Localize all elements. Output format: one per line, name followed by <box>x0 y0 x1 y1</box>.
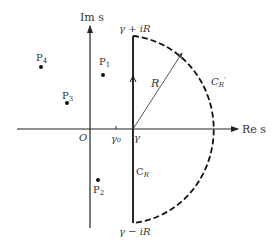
imag-axis-label: Im s <box>80 11 104 24</box>
pole-label: P2 <box>93 184 104 197</box>
gamma0-label: γ₀ <box>111 133 121 144</box>
contour-line-label-sub: R <box>143 171 150 179</box>
radius-label: R <box>150 77 159 90</box>
pole-label: P3 <box>62 90 73 103</box>
contour-diagram: Re s Im s O γ₀ γ R γ + iR γ − iR CR CR′ … <box>0 0 272 251</box>
pole-label: P4 <box>36 52 48 65</box>
contour-bottom-label: γ − iR <box>119 226 151 237</box>
pole-dot <box>101 73 105 77</box>
gamma-label: γ <box>134 132 140 143</box>
radius-arrow <box>133 53 182 129</box>
pole-p2: P2 <box>93 178 104 197</box>
pole-label: P1 <box>99 56 110 69</box>
pole-dot <box>96 178 100 182</box>
real-axis-label: Re s <box>242 123 266 136</box>
contour-arc-label: CR′ <box>211 75 226 89</box>
pole-p3: P3 <box>62 90 73 105</box>
contour-line-label: CR <box>136 166 150 179</box>
pole-p4: P4 <box>36 52 48 69</box>
origin-label: O <box>79 132 87 143</box>
contour-arc-label-prime: ′ <box>224 75 226 84</box>
contour-top-label: γ + iR <box>119 23 151 34</box>
pole-p1: P1 <box>99 56 110 77</box>
pole-dot <box>39 65 43 69</box>
